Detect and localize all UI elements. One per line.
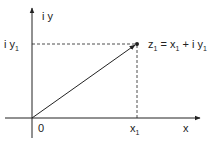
point-z1 bbox=[135, 42, 139, 46]
origin-label: 0 bbox=[38, 122, 44, 134]
complex-plane-diagram: i y x 0 i y1 x1 z1 = x1 + i y1 bbox=[0, 0, 215, 145]
vector-z1 bbox=[32, 45, 135, 118]
x1-tick-label: x1 bbox=[130, 122, 140, 136]
z1-equation-label: z1 = x1 + i y1 bbox=[148, 38, 207, 52]
x-axis-label: x bbox=[183, 122, 189, 134]
y1-tick-label: i y1 bbox=[4, 38, 19, 52]
y-axis-label: i y bbox=[42, 10, 54, 22]
